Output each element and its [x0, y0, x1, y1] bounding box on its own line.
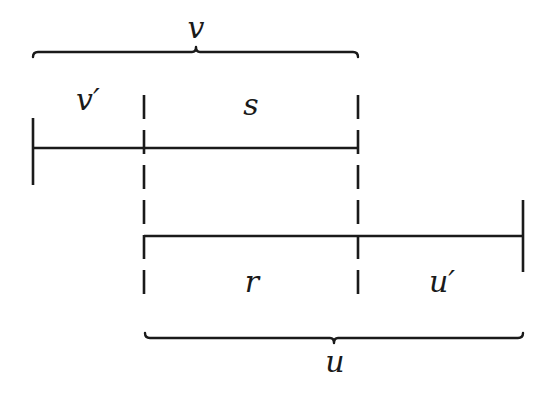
label-u: u — [325, 344, 344, 379]
top-brace-v — [33, 47, 358, 57]
interval-diagram: v v′ s r u′ u — [0, 0, 551, 393]
bottom-brace-u — [145, 333, 523, 343]
label-r: r — [245, 264, 261, 299]
label-u-prime: u′ — [429, 264, 455, 299]
label-v-prime: v′ — [76, 82, 100, 117]
label-v: v — [188, 10, 205, 45]
label-s: s — [243, 87, 258, 122]
